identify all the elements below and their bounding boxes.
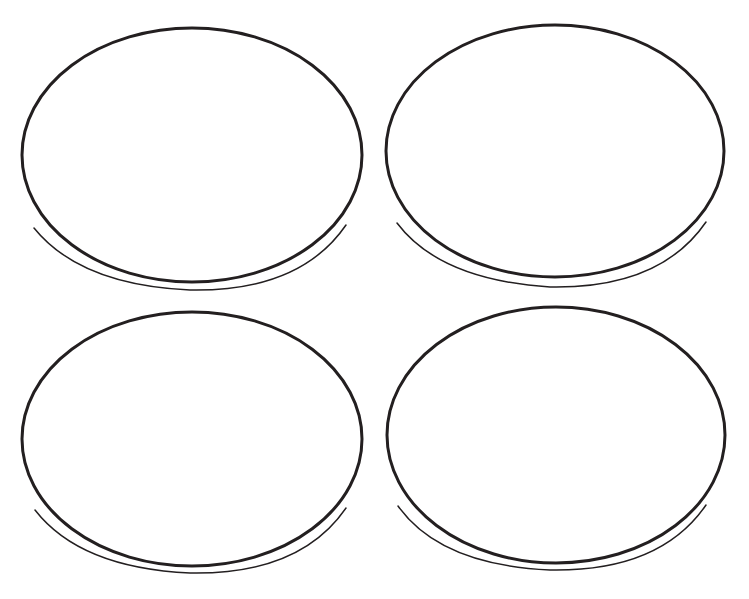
- ellipse-group-bottom-right: [387, 307, 725, 570]
- main-ellipse-outline: [387, 307, 725, 563]
- sketch-tail-stroke: [35, 508, 346, 573]
- sketch-tail-stroke: [34, 225, 346, 290]
- main-ellipse-outline: [22, 28, 362, 282]
- ellipse-group-top-left: [22, 28, 362, 290]
- ellipse-group-top-right: [386, 25, 724, 287]
- main-ellipse-outline: [386, 25, 724, 277]
- main-ellipse-outline: [22, 312, 362, 566]
- ellipse-group-bottom-left: [22, 312, 362, 573]
- ellipse-canvas: [0, 0, 749, 599]
